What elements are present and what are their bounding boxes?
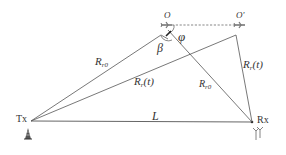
label-r-r0-left: Rr0 xyxy=(95,56,108,69)
label-tx: Tx xyxy=(16,114,27,124)
label-o-prime: O' xyxy=(236,11,244,20)
tx-tower-icon xyxy=(24,128,32,139)
label-r-rt-left: Rr(t) xyxy=(134,76,154,89)
label-r-rt-right: Rr(t) xyxy=(243,59,263,72)
aircraft-icon-oprime xyxy=(234,22,245,28)
rx-antenna-icon xyxy=(253,127,263,140)
velocity-marker xyxy=(166,31,171,36)
label-o: O xyxy=(164,11,171,20)
label-phi: φ xyxy=(178,30,185,43)
path-oprime-rx xyxy=(236,35,252,122)
label-r-r0-right: Rr0 xyxy=(199,79,211,91)
label-beta: β xyxy=(157,42,163,54)
label-rx: Rx xyxy=(257,115,269,125)
label-L: L xyxy=(152,110,159,122)
aircraft-icon-o xyxy=(161,22,172,28)
baseline-L xyxy=(31,121,252,122)
